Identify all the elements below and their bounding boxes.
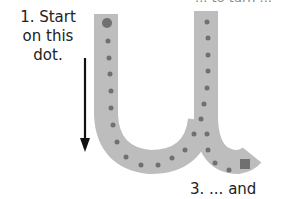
end-square <box>240 159 250 169</box>
letter-u-stroke-right <box>206 11 252 162</box>
start-dot <box>102 18 112 28</box>
letter-u-stroke-left <box>106 14 200 162</box>
letter-formation-diagram: 1. Start on this dot. ... to turn ... 3.… <box>0 0 297 199</box>
instruction-end: 3. ... and down <box>190 180 297 199</box>
direction-arrow-head <box>80 138 90 152</box>
instruction-partial: ... to turn ... <box>195 0 272 7</box>
instruction-start: 1. Start on this dot. <box>10 8 86 65</box>
